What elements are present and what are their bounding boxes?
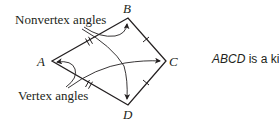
caption-text: is a kite. bbox=[245, 52, 279, 66]
nonvertex-angles-label: Nonvertex angles bbox=[15, 12, 106, 27]
vertex-label-a: A bbox=[36, 54, 45, 69]
caption-kite-name: ABCD bbox=[212, 52, 245, 66]
vertex-label-b: B bbox=[123, 1, 131, 16]
vertex-label-c: C bbox=[169, 54, 178, 69]
vertex-label-d: D bbox=[122, 107, 133, 122]
caption: ABCD is a kite. bbox=[212, 52, 279, 66]
vertex-arrows bbox=[57, 61, 160, 88]
vertex-angles-label: Vertex angles bbox=[18, 88, 88, 103]
